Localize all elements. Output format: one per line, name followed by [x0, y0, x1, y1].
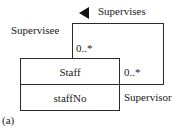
class-attribute: staffNo — [21, 85, 119, 111]
association-line-bottom — [120, 84, 164, 85]
role-supervisee: Supervisee — [11, 24, 59, 36]
class-name: Staff — [21, 59, 119, 85]
association-name: Supervises — [98, 5, 146, 17]
direction-arrow-icon — [79, 7, 89, 19]
association-line-left-vertical — [72, 23, 73, 58]
multiplicity-supervisor: 0..* — [124, 66, 141, 78]
association-line-right-vertical — [163, 23, 164, 85]
role-supervisor: Supervisor — [124, 91, 172, 103]
figure-caption: (a) — [2, 114, 14, 126]
multiplicity-supervisee: 0..* — [76, 42, 93, 54]
class-staff: Staff staffNo — [20, 58, 120, 111]
association-line-top — [72, 23, 164, 24]
